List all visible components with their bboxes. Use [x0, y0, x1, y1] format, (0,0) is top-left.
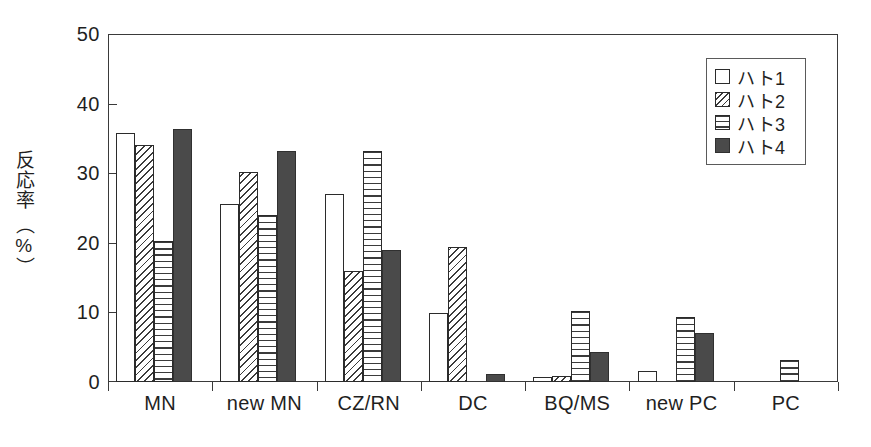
x-tick-mark: [421, 382, 422, 391]
x-axis-label: new PC: [646, 392, 718, 415]
bar: [220, 204, 239, 382]
x-axis-label: CZ/RN: [337, 392, 400, 415]
x-tick-mark: [734, 382, 735, 391]
x-tick-mark: [212, 382, 213, 391]
x-axis-label: PC: [772, 392, 800, 415]
bar: [154, 241, 173, 382]
bar: [258, 215, 277, 382]
x-axis-label: new MN: [227, 392, 302, 415]
bar-group: [429, 34, 505, 382]
bar-group-bars: [220, 34, 296, 382]
bar-group: [116, 34, 192, 382]
legend-swatch-icon: [715, 92, 730, 107]
bar: [116, 133, 135, 382]
bar-chart-figure: 反応率 （%） 01020304050 MNnew MNCZ/RNDCBQ/MS…: [0, 0, 871, 447]
bar: [239, 172, 258, 382]
y-axis-title: 反応率 （%）: [6, 150, 40, 281]
bar-group-bars: [429, 34, 505, 382]
bar-group-bars: [325, 34, 401, 382]
bar-group-bars: [638, 34, 714, 382]
y-tick-label: 50: [77, 23, 100, 46]
legend-swatch-icon: [715, 69, 730, 84]
bar: [363, 151, 382, 382]
bar: [533, 377, 552, 382]
bar: [382, 250, 401, 382]
y-tick-label: 30: [77, 162, 100, 185]
bar-group: [533, 34, 609, 382]
bar: [429, 313, 448, 382]
x-tick-mark: [629, 382, 630, 391]
y-axis-tick-labels: 01020304050: [42, 0, 100, 447]
x-tick-mark: [525, 382, 526, 391]
bar: [695, 333, 714, 382]
legend-item[interactable]: ハト3: [715, 111, 798, 134]
bar: [486, 374, 505, 382]
legend-item-label: ハト4: [737, 133, 786, 159]
bar: [780, 360, 799, 382]
x-axis-label: BQ/MS: [544, 392, 610, 415]
legend-item[interactable]: ハト1: [715, 65, 798, 88]
bar: [571, 311, 590, 382]
bar-group-bars: [116, 34, 192, 382]
bar: [277, 151, 296, 382]
bar-group-bars: [533, 34, 609, 382]
bar: [448, 247, 467, 382]
legend: ハト1ハト2ハト3ハト4: [706, 58, 806, 165]
x-axis-label: MN: [144, 392, 176, 415]
y-axis-title-main: 反応率: [13, 150, 34, 210]
bar-group: [220, 34, 296, 382]
bar: [344, 271, 363, 382]
bar-group: [638, 34, 714, 382]
legend-item[interactable]: ハト4: [715, 134, 798, 157]
y-tick-label: 20: [77, 231, 100, 254]
bar-group: [325, 34, 401, 382]
legend-swatch-icon: [715, 138, 730, 153]
legend-item[interactable]: ハト2: [715, 88, 798, 111]
legend-swatch-icon: [715, 115, 730, 130]
x-tick-mark: [317, 382, 318, 391]
y-axis-title-unit: （%）: [13, 215, 34, 277]
bar: [173, 129, 192, 382]
y-tick-label: 40: [77, 92, 100, 115]
bar: [676, 317, 695, 382]
y-tick-label: 10: [77, 301, 100, 324]
bar: [638, 371, 657, 382]
x-axis-label: DC: [458, 392, 488, 415]
bar: [135, 145, 154, 382]
y-tick-label: 0: [88, 371, 100, 394]
x-tick-mark: [108, 382, 109, 391]
bar: [325, 194, 344, 382]
bar: [552, 376, 571, 382]
bar: [590, 352, 609, 382]
x-tick-mark: [838, 382, 839, 391]
